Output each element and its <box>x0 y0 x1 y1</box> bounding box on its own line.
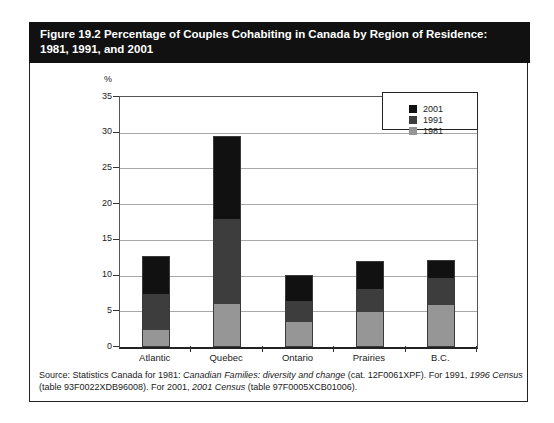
bar-segment-2001 <box>357 262 383 289</box>
x-axis-label: B.C. <box>405 352 475 363</box>
source-publication-title: Canadian Families: diversity and change <box>183 370 345 380</box>
bar-segment-1981 <box>214 304 240 346</box>
y-tick-label: 15 <box>86 233 112 244</box>
legend-item-2001: 2001 <box>409 98 477 109</box>
source-text: (cat. 12F0061XPF). For 1991, <box>345 370 470 380</box>
source-text: (table 93F0022XDB96008). For 2001, <box>39 382 192 392</box>
x-axis-label: Prairies <box>334 352 404 363</box>
y-tick-label: 0 <box>86 341 112 352</box>
x-axis-label: Atlantic <box>120 352 190 363</box>
bar-segment-1991 <box>428 278 454 305</box>
gridline <box>120 204 477 205</box>
bar-segment-2001 <box>143 257 169 295</box>
legend: 200119911981 <box>382 92 478 130</box>
source-text: (table 97F0005XCB01006). <box>245 382 357 392</box>
source-publication-title: 2001 Census <box>192 382 245 392</box>
bar-quebec <box>213 136 241 347</box>
y-tick-label: 35 <box>86 91 112 102</box>
bar-segment-1991 <box>214 219 240 304</box>
bar-segment-1981 <box>357 312 383 346</box>
y-tick-label: 30 <box>86 126 112 137</box>
figure-title-bar: Figure 19.2 Percentage of Couples Cohabi… <box>29 22 530 63</box>
source-publication-title: 1996 Census <box>470 370 523 380</box>
bar-ontario <box>285 275 313 347</box>
bar-segment-1981 <box>286 322 312 346</box>
bar-segment-1991 <box>286 301 312 323</box>
legend-swatch-1981 <box>409 127 417 135</box>
legend-item-1991: 1991 <box>409 109 477 120</box>
figure-box: Figure 19.2 Percentage of Couples Cohabi… <box>29 22 528 402</box>
y-tick-label: 10 <box>86 269 112 280</box>
bar-segment-2001 <box>214 137 240 218</box>
bar-prairies <box>356 261 384 347</box>
x-axis-label: Quebec <box>191 352 261 363</box>
bar-atlantic <box>142 256 170 347</box>
gridline <box>120 240 477 241</box>
bar-segment-1981 <box>428 305 454 346</box>
bar-segment-1981 <box>143 330 169 346</box>
bar-segment-2001 <box>428 261 454 278</box>
bar-segment-1991 <box>143 294 169 330</box>
source-note: Source: Statistics Canada for 1981: Cana… <box>39 370 523 393</box>
legend-item-1981: 1981 <box>409 120 477 131</box>
bar-bc <box>427 260 455 347</box>
y-tick-label: 20 <box>86 198 112 209</box>
y-tick-label: 25 <box>86 162 112 173</box>
source-text: Source: Statistics Canada for 1981: <box>39 370 183 380</box>
x-axis-label: Ontario <box>263 352 333 363</box>
gridline <box>120 168 477 169</box>
x-tick <box>476 346 477 352</box>
bar-segment-1991 <box>357 289 383 312</box>
figure-title: Figure 19.2 Percentage of Couples Cohabi… <box>40 28 487 55</box>
bar-segment-2001 <box>286 276 312 301</box>
y-axis-unit-label: % <box>86 74 112 84</box>
legend-label: 1981 <box>423 126 443 136</box>
y-tick-label: 5 <box>86 305 112 316</box>
